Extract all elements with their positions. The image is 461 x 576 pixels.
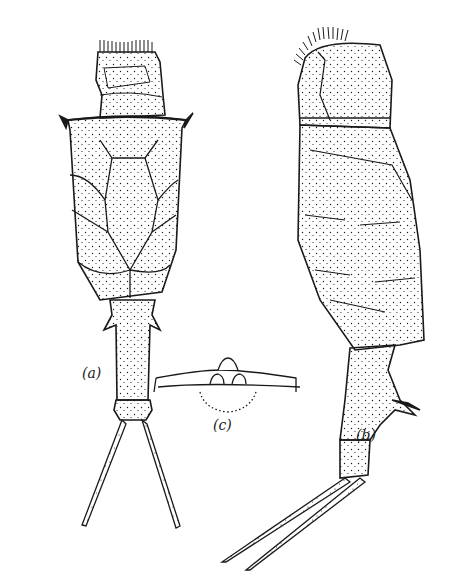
rotifer-figure [0,0,461,576]
label-b: (b) [356,427,376,443]
cilia-a [100,40,152,53]
label-c: (c) [213,417,232,433]
view-b-lateral [222,27,424,570]
view-a-dorsal [60,40,193,528]
label-a: (a) [82,365,101,381]
view-c-detail [154,358,300,412]
